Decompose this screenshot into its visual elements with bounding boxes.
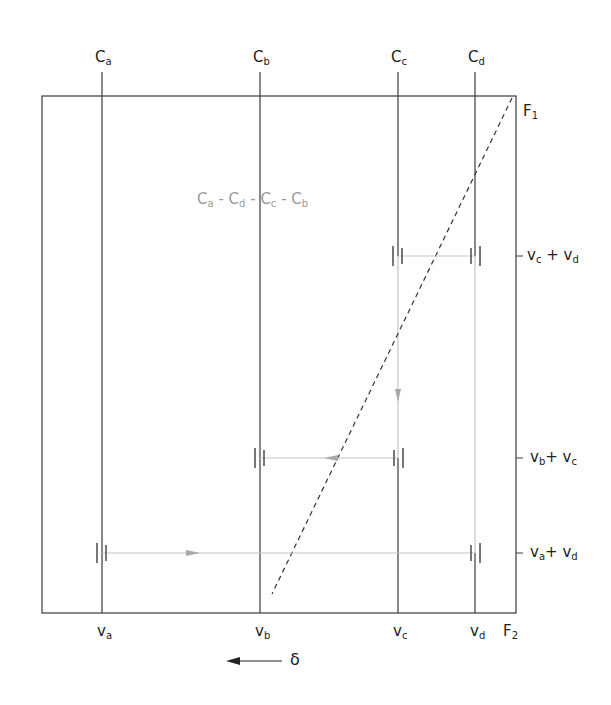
diagram-canvas — [0, 0, 611, 705]
arrow-down-icon — [395, 389, 401, 402]
label-cb: Cb — [253, 50, 270, 67]
label-f1: F1 — [523, 104, 538, 121]
label-vc-plus-vd: vc + vd — [527, 248, 579, 265]
label-f2: F2 — [503, 624, 518, 641]
dashed-diagonal — [272, 98, 512, 594]
label-delta: δ — [290, 652, 300, 668]
label-cd: Cd — [468, 50, 485, 67]
label-vb-plus-vc: vb+ vc — [530, 450, 577, 467]
label-ca: Ca — [95, 50, 112, 67]
label-va-plus-vd: va+ vd — [530, 545, 578, 562]
frame — [42, 96, 516, 613]
label-va: va — [97, 624, 112, 641]
sequence-label: Ca - Cd - Cc - Cb — [197, 192, 308, 209]
label-vb: vb — [255, 624, 270, 641]
delta-arrow-icon — [226, 657, 240, 665]
arrow-left-icon — [324, 455, 338, 461]
label-cc: Cc — [391, 50, 407, 67]
label-vc: vc — [393, 624, 407, 641]
label-vd: vd — [470, 624, 485, 641]
arrow-right-icon — [186, 550, 200, 556]
